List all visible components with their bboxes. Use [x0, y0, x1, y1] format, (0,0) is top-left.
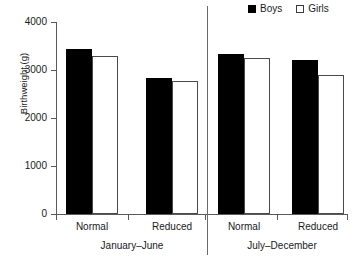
legend-item-boys: Boys — [248, 4, 282, 14]
y-tick-1000: 1000 — [51, 166, 56, 167]
bar-girls-juldec-normal — [244, 58, 270, 214]
y-tick-label-3000: 3000 — [25, 64, 51, 75]
chart-legend: Boys Girls — [248, 4, 329, 14]
x-category-label-janjun-reduced: Reduced — [142, 221, 202, 232]
x-tick-group2-mid — [277, 215, 278, 220]
bar-boys-juldec-normal — [218, 54, 244, 214]
panel-divider — [207, 6, 208, 255]
x-tick-group1-mid — [128, 215, 129, 220]
chart-figure: Boys Girls Birthweight (g) 4000 3000 200… — [0, 0, 362, 262]
x-category-label-janjun-normal: Normal — [62, 221, 122, 232]
x-tick-end — [347, 215, 348, 220]
x-tick-start — [56, 215, 57, 220]
x-category-label-juldec-normal: Normal — [214, 221, 274, 232]
legend-swatch-filled-square-icon — [248, 5, 256, 13]
y-tick-label-0: 0 — [41, 208, 51, 219]
bar-girls-juldec-reduced — [318, 75, 344, 214]
x-group-label-july-december: July–December — [222, 240, 342, 251]
x-group-label-january-june: January–June — [72, 240, 192, 251]
y-tick-3000: 3000 — [51, 70, 56, 71]
bar-girls-janjun-normal — [92, 56, 118, 214]
legend-item-girls: Girls — [296, 4, 329, 14]
legend-label-girls: Girls — [308, 4, 329, 14]
y-axis-line — [56, 22, 57, 215]
bar-boys-janjun-reduced — [146, 78, 172, 214]
legend-swatch-hollow-square-icon — [296, 5, 304, 13]
y-tick-4000: 4000 — [51, 22, 56, 23]
y-tick-label-2000: 2000 — [25, 112, 51, 123]
y-tick-2000: 2000 — [51, 118, 56, 119]
x-axis-line — [56, 214, 348, 215]
legend-label-boys: Boys — [260, 4, 282, 14]
y-tick-label-4000: 4000 — [25, 16, 51, 27]
bar-boys-juldec-reduced — [292, 60, 318, 214]
bar-girls-janjun-reduced — [172, 81, 198, 214]
x-tick-group1-end — [205, 215, 206, 220]
y-tick-label-1000: 1000 — [25, 160, 51, 171]
x-category-label-juldec-reduced: Reduced — [288, 221, 348, 232]
bar-boys-janjun-normal — [66, 49, 92, 214]
